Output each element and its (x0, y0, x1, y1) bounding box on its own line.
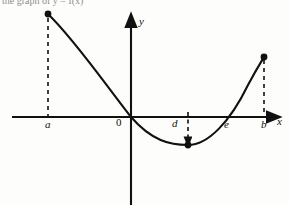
y-axis-label: y (139, 16, 144, 27)
origin-label: 0 (116, 117, 122, 128)
vertex-dot (185, 142, 192, 149)
right-endpoint-dot (261, 54, 268, 61)
left-endpoint-dot (45, 11, 52, 18)
graph-canvas (0, 0, 289, 205)
math-graph-figure: the graph of y = f(x) y x (0, 0, 289, 205)
tick-label-d: d (172, 118, 178, 129)
tick-label-e: e (224, 119, 229, 130)
tick-label-b: b (261, 119, 267, 130)
function-curve (48, 14, 264, 145)
tick-label-a: a (45, 119, 51, 130)
x-axis-label: x (277, 116, 282, 127)
